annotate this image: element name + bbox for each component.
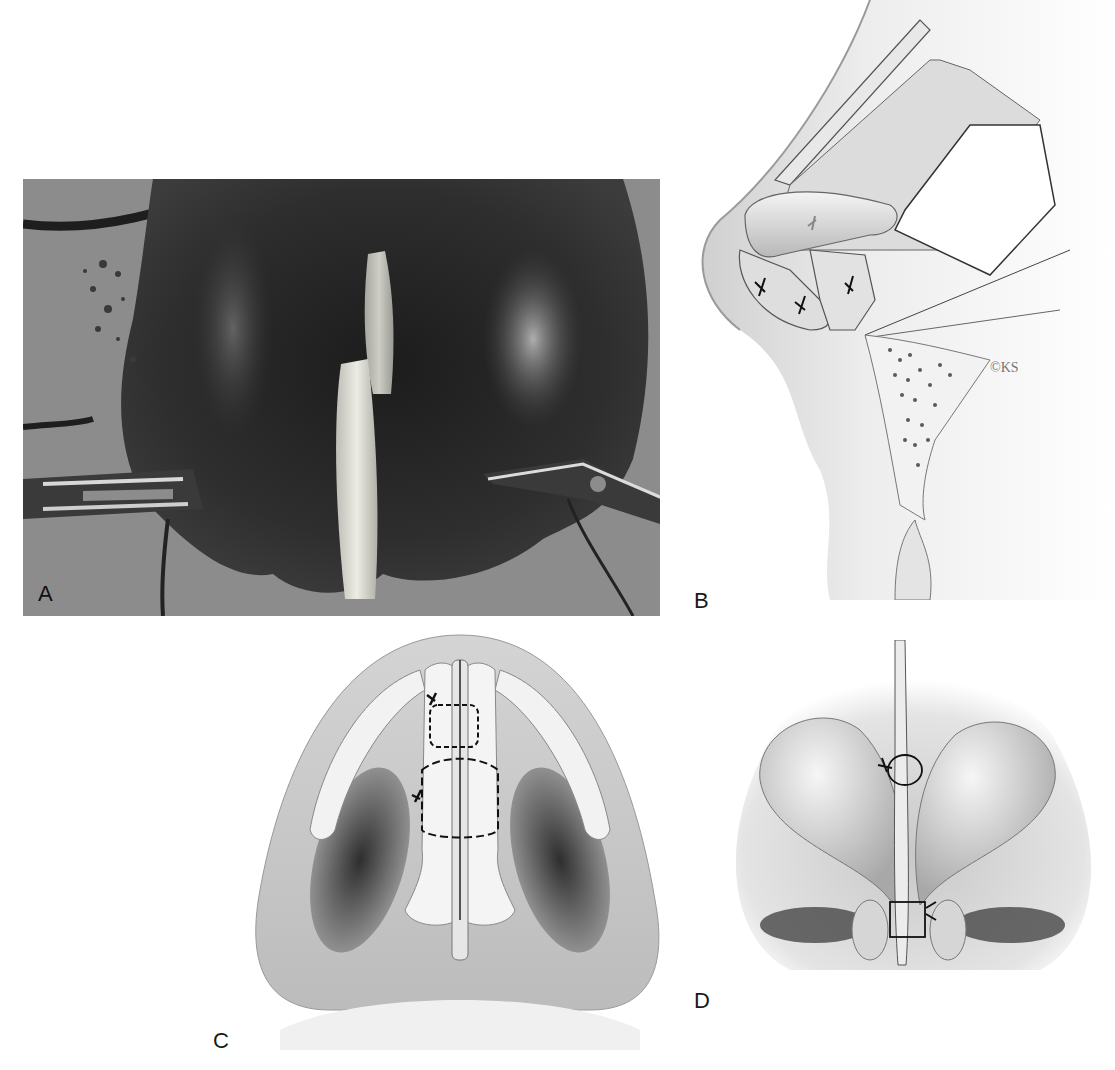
frontal-view-illustration (710, 640, 1115, 1000)
right-nostril-shadow (955, 907, 1065, 943)
panel-d-illustration (710, 640, 1115, 1000)
panel-a-photograph (23, 179, 660, 616)
columellar-strut-graft (336, 359, 377, 599)
right-footplate (930, 900, 966, 960)
surgical-photo (23, 179, 660, 616)
artist-signature: ©KS (990, 360, 1019, 375)
basal-view-illustration (240, 630, 680, 1050)
panel-label-d: D (694, 990, 710, 1012)
strut-graft (894, 640, 908, 965)
panel-b-illustration: ©KS (690, 0, 1115, 600)
tissue-highlight (193, 219, 273, 439)
panel-c-illustration (240, 630, 680, 1050)
panel-label-a: A (38, 583, 53, 605)
lateral-view-illustration: ©KS (690, 0, 1115, 600)
panel-label-c: C (213, 1030, 229, 1052)
left-footplate (852, 900, 888, 960)
tissue-highlight (483, 249, 583, 429)
panel-label-b: B (694, 590, 709, 612)
